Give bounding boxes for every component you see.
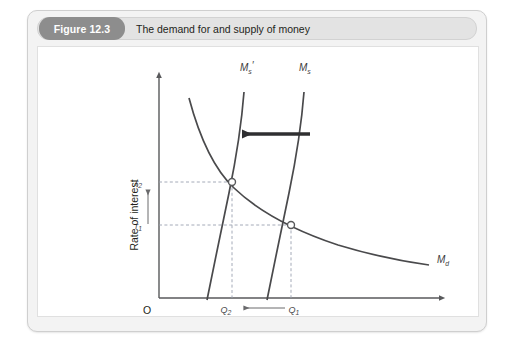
curve-label-ms-sub: s <box>307 68 311 75</box>
curve-label-ms: Ms <box>299 62 311 75</box>
x-tick-label-q2: Q2 <box>221 305 232 316</box>
figure-number-badge: Figure 12.3 <box>39 17 125 40</box>
money-market-diagram: Ms′ Ms Md r2 r1 Q2 Q1 <box>38 47 478 316</box>
money-demand-curve <box>189 98 429 265</box>
y-axis-title: Rate of interest <box>128 179 140 250</box>
figure-title: The demand for and supply of money <box>136 18 310 39</box>
equilibrium-point-original <box>288 222 295 229</box>
money-supply-original-curve <box>267 92 304 300</box>
curve-label-ms-prime-mark: ′ <box>252 60 255 71</box>
curve-label-md: Md <box>437 254 449 267</box>
curve-label-ms-prime: Ms′ <box>240 60 255 74</box>
origin-label: O <box>143 304 151 316</box>
x-tick-q2-sub: 2 <box>227 309 232 316</box>
figure-header: Figure 12.3 The demand for and supply of… <box>28 17 486 43</box>
x-tick-q1-base: Q <box>289 305 296 315</box>
figure-title-pill: Figure 12.3 The demand for and supply of… <box>37 17 477 40</box>
equilibrium-point-new <box>229 179 236 186</box>
curve-label-md-sub: d <box>445 260 449 267</box>
x-tick-q2-base: Q <box>221 305 228 315</box>
figure-card: Figure 12.3 The demand for and supply of… <box>27 10 487 332</box>
x-tick-q1-sub: 1 <box>296 309 300 316</box>
money-supply-new-curve <box>207 92 244 300</box>
chart-panel: Ms′ Ms Md r2 r1 Q2 Q1 <box>37 46 479 317</box>
x-tick-label-q1: Q1 <box>289 305 300 316</box>
